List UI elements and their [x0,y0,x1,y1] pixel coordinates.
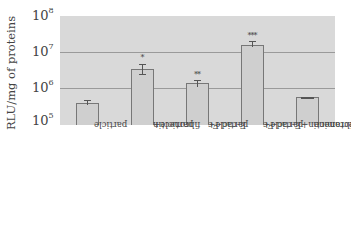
significance-marker: * [127,53,157,62]
y-axis-label: RLU/mg of proteins [2,18,20,128]
y-tick-1e5: 105 [32,113,54,128]
x-label-particle-fibronectin-ecad-fc: particle+fibronectin+E-cad-Fc [249,130,263,230]
x-label-lipofectamine: Lipofectamine [300,130,314,230]
x-label-particle-ecad-fc: particle+E-cad-Fc [194,130,208,230]
bar-particle-fibronectin [131,69,154,125]
gridline-1e7 [60,52,335,53]
plot-area: * ** *** [60,16,335,125]
y-tick-1e7: 107 [32,44,54,59]
bar-particle-fibronectin-ecad-fc [241,45,264,125]
error-bar [197,80,198,87]
error-cap [301,97,314,99]
error-bar [142,64,143,74]
significance-marker: *** [237,31,267,40]
x-label-particle: particle [80,130,94,230]
error-cap [84,100,91,101]
error-cap [139,74,146,75]
significance-marker: ** [182,70,212,79]
error-cap [139,64,146,65]
y-tick-1e6: 106 [32,80,54,95]
x-label-particle-fibronectin: particle+fibronectin [139,130,153,230]
error-cap [249,41,256,42]
error-cap [194,80,201,81]
y-tick-1e8: 108 [32,8,54,23]
